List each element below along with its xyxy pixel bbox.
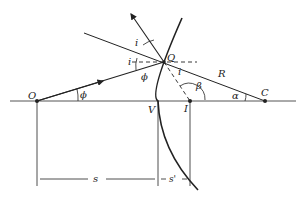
label-s-prime: s'	[169, 174, 176, 184]
label-c: C	[261, 87, 269, 98]
label-i-left: i	[128, 56, 131, 67]
label-i-refracted: i	[178, 66, 181, 77]
point-c	[263, 99, 267, 103]
label-i-upper: i	[135, 37, 138, 48]
label-i: I	[183, 103, 189, 114]
refracting-surface	[156, 18, 198, 190]
refraction-diagram: O V I C Q R ϕ ϕ i i i β α s s'	[0, 0, 306, 197]
label-o: O	[28, 90, 36, 101]
label-v: V	[148, 104, 157, 115]
label-s: s	[93, 173, 98, 184]
label-phi-ray: ϕ	[141, 71, 148, 82]
point-q	[162, 60, 166, 64]
label-q: Q	[167, 52, 175, 63]
label-alpha: α	[232, 90, 239, 101]
label-phi-axis: ϕ	[80, 89, 87, 100]
label-r: R	[217, 68, 226, 79]
label-beta: β	[195, 80, 202, 91]
